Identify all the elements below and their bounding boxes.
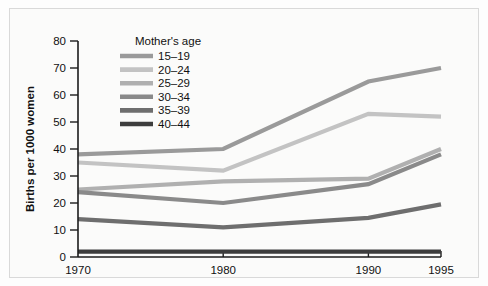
legend-label: 35–39 (158, 104, 190, 116)
line-chart-svg: 01020304050607080 1970198019901995 Mothe… (0, 0, 488, 286)
chart-figure: 01020304050607080 1970198019901995 Mothe… (0, 0, 488, 286)
legend-label: 15–19 (158, 50, 190, 62)
y-tick-label: 50 (53, 116, 66, 128)
y-tick-label: 0 (60, 251, 66, 263)
legend-label: 25–29 (158, 77, 190, 89)
y-axis-group: 01020304050607080 (53, 35, 78, 263)
legend-label: 40–44 (158, 118, 191, 130)
y-tick-label: 80 (53, 35, 66, 47)
legend-label: 20–24 (158, 64, 191, 76)
series-line (78, 204, 441, 227)
legend-title: Mother's age (135, 35, 201, 47)
x-tick-label: 1995 (428, 264, 454, 276)
x-tick-label: 1990 (356, 264, 382, 276)
x-axis-group: 1970198019901995 (65, 251, 454, 276)
y-tick-label: 10 (53, 224, 66, 236)
y-axis-title: Births per 1000 women (24, 86, 36, 212)
y-tick-label: 30 (53, 170, 66, 182)
x-tick-label: 1970 (65, 264, 91, 276)
x-tick-label: 1980 (210, 264, 236, 276)
y-tick-label: 60 (53, 89, 66, 101)
legend-label: 30–34 (158, 91, 191, 103)
plot-container: 01020304050607080 1970198019901995 Mothe… (0, 0, 488, 286)
legend: Mother's age15–1920–2425–2930–3435–3940–… (120, 35, 201, 130)
y-tick-label: 20 (53, 197, 66, 209)
y-tick-label: 40 (53, 143, 66, 155)
y-tick-label: 70 (53, 62, 66, 74)
